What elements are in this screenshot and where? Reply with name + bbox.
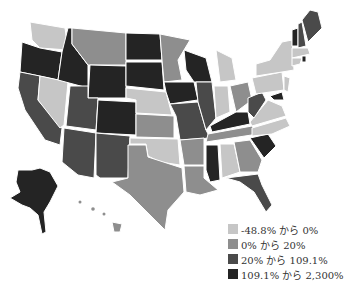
legend-label: 20% から 109.1%: [241, 252, 328, 267]
state-washington: [30, 22, 68, 50]
state-alaska: [10, 168, 58, 234]
legend-item: 109.1% から 2,300%: [228, 267, 344, 281]
state-hawaii-island: [79, 201, 82, 204]
state-new-jersey: [284, 76, 290, 92]
legend-label: -48.8% から 0%: [241, 222, 318, 237]
legend-label: 109.1% から 2,300%: [241, 267, 344, 282]
state-mississippi: [206, 145, 220, 182]
state-maryland: [270, 92, 284, 100]
state-michigan: [216, 50, 236, 82]
state-north-dakota: [126, 33, 162, 60]
state-south-dakota: [126, 62, 164, 90]
state-new-york: [256, 40, 294, 76]
legend-swatch: [228, 224, 238, 234]
legend-item: -48.8% から 0%: [228, 222, 344, 236]
state-connecticut: [292, 58, 302, 66]
legend-item: 20% から 109.1%: [228, 252, 344, 266]
state-new-mexico: [96, 133, 130, 178]
legend: -48.8% から 0% 0% から 20% 20% から 109.1% 109…: [228, 222, 344, 282]
state-wisconsin: [184, 50, 212, 82]
state-rhode-island: [302, 56, 306, 62]
state-colorado: [96, 100, 136, 135]
state-arkansas: [180, 138, 204, 165]
legend-swatch: [228, 239, 238, 249]
state-indiana: [214, 86, 230, 118]
state-vermont: [292, 28, 298, 46]
state-florida: [226, 174, 272, 212]
state-arizona: [62, 128, 96, 178]
legend-label: 0% から 20%: [241, 237, 305, 252]
state-iowa: [164, 82, 198, 104]
state-hawaii: [112, 222, 122, 232]
state-wyoming: [88, 65, 126, 98]
legend-swatch: [228, 269, 238, 279]
state-hawaii-island: [91, 207, 95, 211]
state-kansas: [136, 114, 174, 138]
state-hawaii-island: [103, 213, 106, 216]
legend-item: 0% から 20%: [228, 237, 344, 251]
state-massachusetts: [292, 48, 310, 58]
legend-swatch: [228, 254, 238, 264]
